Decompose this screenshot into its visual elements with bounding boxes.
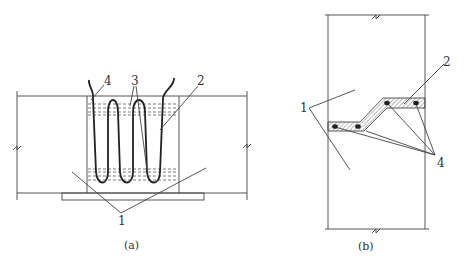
label-b-1: 1 (300, 101, 308, 115)
rebar-dot-4 (413, 101, 419, 106)
leader-b4c (388, 104, 435, 155)
rebar-dot-1 (332, 124, 338, 129)
label-b-4: 4 (437, 156, 445, 170)
caption-a: (a) (124, 239, 139, 252)
label-a-1: 1 (118, 214, 126, 228)
bottom-plate (62, 193, 204, 200)
figure-b (309, 15, 444, 233)
rebar-dot-2 (355, 124, 361, 129)
leader-b4a (335, 127, 435, 155)
rebar-dot-3 (384, 101, 390, 106)
diagram-canvas: 4 3 2 1 (a) 1 2 4 (b) (0, 0, 464, 265)
figure-a (13, 78, 251, 213)
leader-b4d (416, 104, 435, 155)
break-mark-right-icon (243, 144, 251, 148)
leader-b1b (309, 108, 350, 170)
break-mark-top-icon (372, 15, 380, 19)
leader-b1a (309, 90, 355, 108)
label-a-4: 4 (104, 74, 112, 88)
serpentine-rebar (89, 78, 174, 183)
label-a-2: 2 (197, 74, 205, 88)
caption-b: (b) (358, 240, 374, 253)
break-mark-bottom-icon (372, 229, 380, 233)
label-a-3: 3 (131, 74, 139, 88)
leader-1b (121, 168, 206, 213)
hatched-joint-band (328, 98, 425, 131)
label-b-2: 2 (443, 55, 451, 69)
break-mark-left-icon (13, 146, 21, 150)
